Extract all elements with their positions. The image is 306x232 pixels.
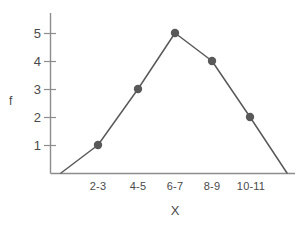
frequency-polygon-chart: 5 4 3 2 1 2-3 4-5 6-7 8-9 10-11 f X (0, 0, 306, 232)
data-line (61, 33, 287, 173)
y-tick-label-2: 2 (25, 111, 41, 124)
x-tick-label-1: 2-3 (90, 181, 107, 192)
data-point-2 (134, 85, 142, 93)
y-axis-title: f (9, 95, 12, 107)
y-tick-label-1: 1 (25, 139, 41, 152)
x-tick-label-5: 10-11 (237, 181, 265, 192)
data-point-1 (94, 141, 102, 149)
x-tick-label-3: 6-7 (167, 181, 184, 192)
y-tick-label-3: 3 (25, 83, 41, 96)
data-point-3 (171, 29, 179, 37)
x-tick-label-4: 8-9 (204, 181, 221, 192)
y-tick-label-5: 5 (25, 27, 41, 40)
x-tick-label-2: 4-5 (130, 181, 147, 192)
y-tick-label-4: 4 (25, 55, 41, 68)
x-axis-title: X (171, 204, 180, 217)
plot-area (0, 0, 306, 232)
data-point-4 (208, 57, 216, 65)
data-point-5 (246, 113, 254, 121)
